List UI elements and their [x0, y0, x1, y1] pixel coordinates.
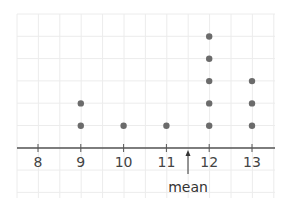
- mean-arrow-icon: [186, 150, 191, 156]
- data-dot: [206, 78, 212, 84]
- x-tick-label: 10: [115, 154, 133, 170]
- grid: [17, 14, 275, 198]
- data-dot: [249, 100, 255, 106]
- x-tick-label: 12: [200, 154, 218, 170]
- data-dot: [206, 56, 212, 62]
- data-dot: [249, 123, 255, 129]
- data-dot: [78, 100, 84, 106]
- data-dot: [206, 123, 212, 129]
- x-tick-label: 13: [243, 154, 261, 170]
- x-tick-label: 9: [76, 154, 85, 170]
- mean-label: mean: [168, 179, 208, 195]
- dot-plot: 8910111213 mean: [0, 0, 285, 205]
- data-dot: [163, 123, 169, 129]
- data-dot: [206, 33, 212, 39]
- x-tick-label: 8: [34, 154, 43, 170]
- data-dot: [78, 123, 84, 129]
- x-tick-label: 11: [157, 154, 175, 170]
- data-dot: [206, 100, 212, 106]
- data-dot: [249, 78, 255, 84]
- data-dot: [120, 123, 126, 129]
